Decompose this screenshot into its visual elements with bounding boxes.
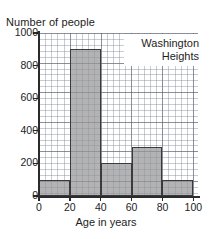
- bar: [39, 180, 70, 196]
- y-tick-label: 0: [8, 189, 38, 201]
- x-tick-label: 100: [180, 201, 206, 213]
- x-tick-label: 40: [88, 201, 114, 213]
- x-tick-label: 0: [26, 201, 52, 213]
- legend: WashingtonHeights: [124, 34, 202, 66]
- y-tick-label: 800: [8, 59, 38, 71]
- legend-line: Heights: [127, 50, 199, 63]
- legend-line: Washington: [127, 37, 199, 50]
- y-tick-label: 200: [8, 156, 38, 168]
- x-axis-title: Age in years: [0, 216, 212, 228]
- bar: [162, 180, 193, 196]
- bar: [70, 49, 101, 196]
- x-axis-line: [38, 196, 200, 198]
- bar: [132, 147, 163, 196]
- y-tick-label: 600: [8, 91, 38, 103]
- histogram-figure: Number of people 02004006008001000 02040…: [0, 0, 212, 239]
- x-tick-label: 60: [119, 201, 145, 213]
- y-tick-label: 1000: [8, 26, 38, 38]
- x-tick-label: 80: [149, 201, 175, 213]
- x-tick-label: 20: [57, 201, 83, 213]
- y-tick-label: 400: [8, 124, 38, 136]
- y-axis-line: [38, 31, 40, 198]
- bar: [101, 163, 132, 196]
